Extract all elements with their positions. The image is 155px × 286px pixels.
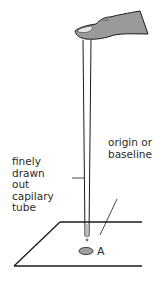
chromatography-plate <box>14 222 142 266</box>
droplet-icon <box>86 239 89 242</box>
origin-baseline-label: origin or baseline <box>108 137 154 160</box>
capillary-tube <box>83 40 91 241</box>
origin-leader-line <box>100 199 117 235</box>
capillary-tube-label: finely drawn out capilary tube <box>12 156 74 214</box>
sample-spot <box>79 247 93 254</box>
spot-label-a: A <box>97 246 105 258</box>
finger-icon <box>75 11 148 39</box>
